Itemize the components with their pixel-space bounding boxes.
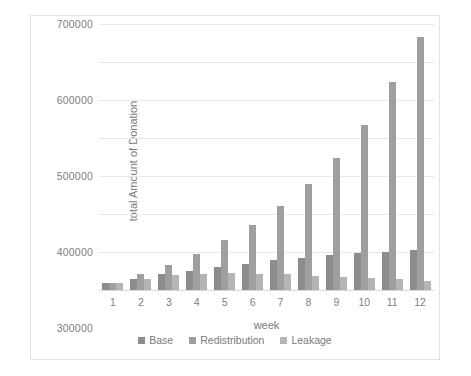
x-axis-tick-label: 11 — [387, 297, 398, 308]
bar-leakage-week-6[interactable] — [256, 274, 263, 290]
bar-redistribution-week-9[interactable] — [333, 158, 340, 290]
bar-base-week-12[interactable] — [410, 250, 417, 290]
bar-group: 6 — [239, 24, 267, 290]
x-axis-tick-label: 1 — [110, 297, 116, 308]
bar-leakage-week-7[interactable] — [284, 274, 291, 290]
bar-base-week-4[interactable] — [186, 271, 193, 290]
y-axis-tick-label: 700000 — [57, 19, 93, 30]
bar-redistribution-week-10[interactable] — [361, 125, 368, 290]
bar-group: 4 — [183, 24, 211, 290]
x-axis-tick-label: 7 — [278, 297, 284, 308]
bar-leakage-week-11[interactable] — [396, 279, 403, 290]
bar-group: 1 — [99, 24, 127, 290]
x-axis-tick-label: 6 — [250, 297, 256, 308]
bar-leakage-week-2[interactable] — [144, 279, 151, 290]
bar-group: 5 — [211, 24, 239, 290]
bar-redistribution-week-8[interactable] — [305, 184, 312, 290]
bar-base-week-2[interactable] — [130, 279, 137, 290]
gridline: 0 — [99, 290, 434, 291]
bar-group: 8 — [294, 24, 322, 290]
bar-redistribution-week-1[interactable] — [109, 283, 116, 290]
x-axis-tick-label: 10 — [358, 297, 370, 308]
bar-leakage-week-1[interactable] — [116, 283, 123, 290]
bar-redistribution-week-7[interactable] — [277, 206, 284, 290]
legend-swatch-icon — [138, 337, 145, 344]
x-axis-tick-label: 5 — [222, 297, 228, 308]
bar-leakage-week-3[interactable] — [172, 275, 179, 290]
legend-item-leakage[interactable]: Leakage — [280, 334, 331, 346]
bar-redistribution-week-2[interactable] — [137, 274, 144, 290]
x-axis-tick-label: 8 — [305, 297, 311, 308]
x-axis-tick-label: 9 — [333, 297, 339, 308]
legend-item-base[interactable]: Base — [138, 334, 173, 346]
bar-base-week-6[interactable] — [242, 264, 249, 290]
bar-group: 12 — [406, 24, 434, 290]
bar-leakage-week-8[interactable] — [312, 276, 319, 290]
legend-swatch-icon — [189, 337, 196, 344]
legend-label: Base — [149, 334, 173, 346]
bar-group: 3 — [155, 24, 183, 290]
legend-item-redistribution[interactable]: Redistribution — [189, 334, 264, 346]
chart-legend: BaseRedistributionLeakage — [31, 334, 439, 346]
bar-redistribution-week-12[interactable] — [417, 37, 424, 290]
x-axis-tick-label: 2 — [138, 297, 144, 308]
bar-redistribution-week-5[interactable] — [221, 240, 228, 290]
bar-base-week-10[interactable] — [354, 253, 361, 290]
legend-label: Leakage — [291, 334, 331, 346]
bar-group: 9 — [322, 24, 350, 290]
bar-series-container: 123456789101112 — [99, 24, 434, 290]
x-axis-tick-label: 4 — [194, 297, 200, 308]
bar-group: 2 — [127, 24, 155, 290]
bar-leakage-week-5[interactable] — [228, 273, 235, 290]
plot-wrap: 0100000200000300000400000500000600000700… — [99, 24, 434, 290]
y-axis-tick-label: 600000 — [57, 95, 93, 106]
bar-redistribution-week-3[interactable] — [165, 265, 172, 290]
bar-redistribution-week-4[interactable] — [193, 254, 200, 290]
bar-base-week-3[interactable] — [158, 274, 165, 290]
legend-label: Redistribution — [200, 334, 264, 346]
bar-leakage-week-9[interactable] — [340, 277, 347, 290]
x-axis-tick-label: 12 — [414, 297, 426, 308]
bar-base-week-5[interactable] — [214, 267, 221, 290]
bar-leakage-week-12[interactable] — [424, 281, 431, 291]
x-axis-tick-label: 3 — [166, 297, 172, 308]
y-axis-tick-label: 400000 — [57, 247, 93, 258]
bar-base-week-7[interactable] — [270, 260, 277, 290]
bar-redistribution-week-6[interactable] — [249, 225, 256, 290]
legend-swatch-icon — [280, 337, 287, 344]
chart-frame: total Amount of Donation 010000020000030… — [30, 15, 440, 360]
bar-redistribution-week-11[interactable] — [389, 82, 396, 290]
bar-base-week-8[interactable] — [298, 258, 305, 290]
bar-leakage-week-4[interactable] — [200, 274, 207, 290]
bar-base-week-1[interactable] — [102, 283, 109, 290]
bar-group: 7 — [267, 24, 295, 290]
y-axis-tick-label: 300000 — [57, 323, 93, 334]
bar-group: 11 — [378, 24, 406, 290]
x-axis-title: week — [99, 319, 434, 331]
bar-leakage-week-10[interactable] — [368, 278, 375, 290]
bar-base-week-11[interactable] — [382, 252, 389, 290]
bar-group: 10 — [350, 24, 378, 290]
bar-base-week-9[interactable] — [326, 255, 333, 290]
y-axis-tick-label: 500000 — [57, 171, 93, 182]
